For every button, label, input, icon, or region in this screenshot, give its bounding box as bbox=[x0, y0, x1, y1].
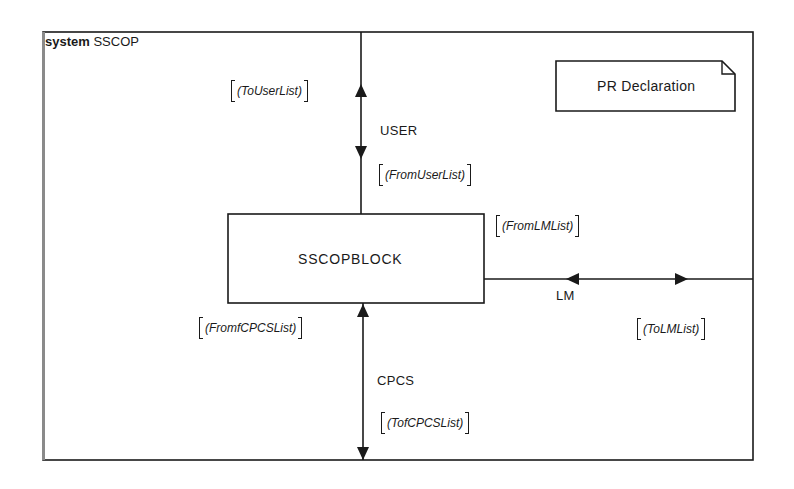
lm-arrow-right-icon bbox=[675, 273, 688, 285]
cpcs-channel-name: CPCS bbox=[377, 374, 414, 387]
to-cpcs-list-signal: (TofCPCSList) bbox=[381, 412, 469, 434]
from-lm-list-signal: (FromLMList) bbox=[496, 215, 579, 237]
user-arrow-down-icon bbox=[355, 146, 367, 159]
system-name: SSCOP bbox=[93, 34, 139, 49]
block-name: SSCOPBLOCK bbox=[298, 252, 402, 266]
cpcs-arrow-down-icon bbox=[357, 447, 369, 460]
lm-channel-name: LM bbox=[556, 289, 575, 302]
pr-declaration-label: PR Declaration bbox=[597, 79, 695, 93]
to-lm-list-signal: (ToLMList) bbox=[637, 318, 705, 340]
system-keyword: system bbox=[45, 34, 90, 49]
cpcs-arrow-up-icon bbox=[357, 304, 369, 317]
to-user-list-signal: (ToUserList) bbox=[231, 80, 308, 102]
lm-arrow-left-icon bbox=[566, 273, 579, 285]
from-user-list-signal: (FromUserList) bbox=[379, 164, 471, 186]
user-channel-name: USER bbox=[380, 124, 417, 137]
from-cpcs-list-signal: (FromfCPCSList) bbox=[199, 317, 302, 339]
system-header: system SSCOP bbox=[45, 35, 139, 48]
user-arrow-up-icon bbox=[355, 84, 367, 97]
